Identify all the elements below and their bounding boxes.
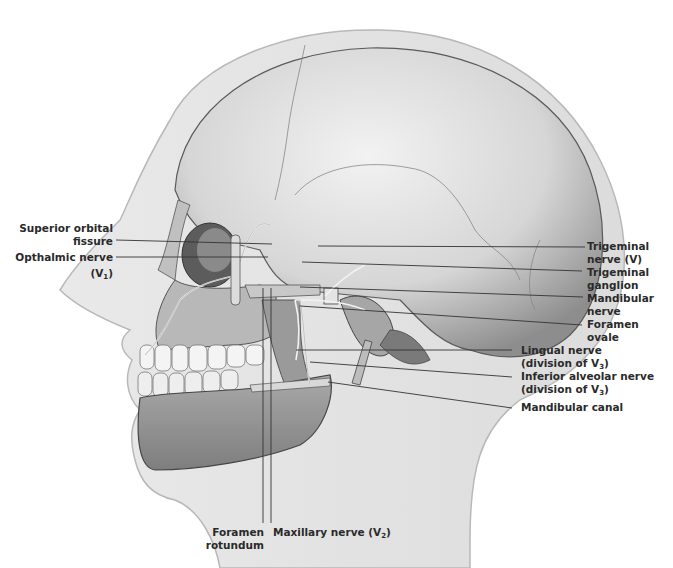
label-line: fissure (19, 235, 113, 248)
orbit-highlight (197, 228, 233, 272)
label-line: Trigeminal (587, 240, 649, 253)
label-line: rotundum (206, 539, 264, 552)
label-text: ) (108, 267, 113, 279)
label-trigeminal-ganglion: Trigeminal ganglion (587, 266, 649, 292)
label-maxillary-nerve: Maxillary nerve (V2) (273, 526, 391, 543)
label-foramen-rotundum: Foramen rotundum (206, 526, 264, 552)
head-skull-illustration (0, 0, 673, 568)
label-line: ovale (587, 331, 639, 344)
label-mandibular-nerve: Mandibular nerve (587, 292, 654, 318)
label-trigeminal-nerve: Trigeminal nerve (V) (587, 240, 649, 266)
label-line: (division of V3) (521, 383, 654, 400)
label-mandibular-canal: Mandibular canal (521, 401, 623, 414)
label-line: Foramen (206, 526, 264, 539)
label-line: Mandibular (587, 292, 654, 305)
label-text: ) (386, 526, 391, 538)
label-line: Opthalmic nerve (15, 251, 113, 264)
label-line: ganglion (587, 279, 649, 292)
label-text: ) (604, 357, 609, 369)
label-text: (division of V (521, 357, 599, 369)
opthalmic-nerve-shape (231, 235, 240, 305)
label-line: Superior orbital (19, 222, 113, 235)
label-line: Lingual nerve (521, 344, 609, 357)
label-text: (V (90, 267, 103, 279)
label-text: ) (604, 383, 609, 395)
label-inferior-alveolar-nerve: Inferior alveolar nerve (division of V3) (521, 370, 654, 400)
label-line: Trigeminal (587, 266, 649, 279)
label-text: Maxillary nerve (V (273, 526, 381, 538)
label-line: Inferior alveolar nerve (521, 370, 654, 383)
label-text: (division of V (521, 383, 599, 395)
label-line: Foramen (587, 318, 639, 331)
trigeminal-nerve-diagram: Superior orbital fissure Opthalmic nerve… (0, 0, 673, 568)
label-line: Mandibular canal (521, 401, 623, 414)
label-superior-orbital-fissure: Superior orbital fissure (19, 222, 113, 248)
label-line: nerve (V) (587, 253, 649, 266)
label-foramen-ovale: Foramen ovale (587, 318, 639, 344)
label-opthalmic-nerve: Opthalmic nerve (V1) (15, 251, 113, 284)
label-line: nerve (587, 305, 654, 318)
label-line: (V1) (15, 267, 113, 284)
